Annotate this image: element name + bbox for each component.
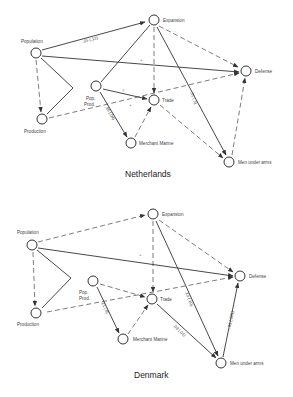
edge-merchantmarine-trade (128, 305, 148, 334)
coef-popprod-merchantmarine: .21 (.8) (100, 300, 110, 315)
node-trade (147, 294, 157, 304)
edge-trade-menunderarms (157, 304, 216, 358)
node-merchant-marine (118, 334, 128, 344)
coef-population-defense: + (140, 57, 143, 62)
label-defense: Defense (249, 274, 267, 279)
label-trade: Trade (162, 98, 174, 103)
diagram-title-netherlands: Netherlands (125, 169, 171, 179)
label-men-under-arms: Men under arms (230, 361, 264, 366)
label-men-under-arms: Men under arms (238, 160, 272, 165)
edge-population-production-bracket (37, 250, 71, 308)
label-production: Production (17, 322, 39, 327)
label-merchant-marine: Merchant Marine (139, 141, 174, 146)
edge-population-production (33, 252, 35, 306)
node-population (27, 240, 37, 250)
coef-population-expansion: .35 (.13) (82, 35, 99, 44)
label-pop-prod-2: Prod. (79, 296, 90, 301)
node-men-under-arms (224, 157, 234, 167)
node-expansion (148, 209, 158, 219)
node-pop-prod (88, 276, 98, 286)
node-trade (149, 95, 159, 105)
edge-population-defense (38, 248, 233, 276)
edge-expansion-defense (159, 26, 238, 67)
coef-popprod-trade: + (122, 87, 125, 92)
label-expansion: Expansion (162, 212, 184, 217)
label-trade: Trade (160, 297, 172, 302)
netherlands-diagram: .35 (.13) + + + .98 (.04) .31 (.3) Popul… (21, 15, 273, 179)
node-defense (241, 66, 251, 76)
coef-popprod-merchantmarine: .98 (.04) (104, 105, 116, 122)
node-men-under-arms (216, 358, 226, 368)
label-population: Population (17, 230, 39, 235)
label-pop-prod-1: Pop. (79, 290, 88, 295)
edge-population-expansion (38, 215, 145, 242)
node-merchant-marine (126, 138, 136, 148)
edge-expansion-defense (159, 220, 233, 272)
edge-production-defense (49, 73, 239, 118)
edge-menunderarms-defense (232, 78, 245, 155)
label-expansion: Expansion (163, 18, 185, 23)
node-production (37, 114, 47, 124)
coef-production-defense: + (129, 102, 132, 107)
label-pop-prod-2: Prod. (84, 102, 95, 107)
label-pop-prod-1: Pop. (86, 96, 95, 101)
diagram-title-denmark: Denmark (134, 370, 169, 380)
node-population (31, 48, 41, 58)
coef-expansion-menunderarms: .23 (.10) (184, 291, 195, 308)
coef-expansion-menunderarms: .31 (.3) (189, 91, 198, 106)
edge-population-production (36, 60, 41, 112)
path-diagrams: .35 (.13) + + + .98 (.04) .31 (.3) Popul… (0, 0, 293, 397)
denmark-diagram: + .21 (.8) .23 (.10) .03 (.01) -.01 (.00… (17, 209, 267, 380)
coef-menunderarms-defense: -.01 (.001) (226, 310, 235, 331)
label-production: Production (24, 129, 46, 134)
edge-expansion-menunderarms (156, 221, 218, 356)
edge-merchantmarine-trade (135, 107, 151, 137)
edge-popprod-trade (103, 89, 147, 99)
node-expansion (149, 15, 159, 25)
edge-production-defense (47, 277, 233, 312)
label-population: Population (21, 39, 43, 44)
node-pop-prod (91, 81, 101, 91)
label-defense: Defense (255, 69, 273, 74)
coef-population-defense: + (139, 252, 142, 257)
edge-popprod-expansion (101, 25, 150, 82)
node-production (31, 308, 41, 318)
node-defense (235, 271, 245, 281)
edge-population-production-bracket (41, 58, 73, 114)
label-merchant-marine: Merchant Marine (133, 337, 168, 342)
